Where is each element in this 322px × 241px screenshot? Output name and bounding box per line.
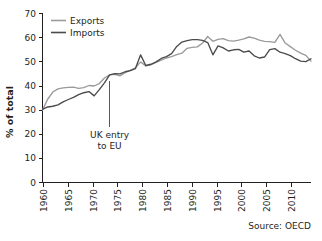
x-axis-ticks (44, 183, 292, 187)
x-tick-label: 1985 (163, 189, 173, 212)
chart-container: 0 10 20 30 40 50 60 70 % of total (0, 0, 322, 241)
y-axis-tick-labels: 0 10 20 30 40 50 60 70 (25, 9, 37, 188)
x-tick-label: 1995 (213, 189, 223, 212)
y-tick-label: 50 (25, 57, 37, 67)
y-tick-label: 60 (25, 33, 37, 43)
legend-label-exports: Exports (70, 16, 104, 26)
y-tick-label: 30 (25, 105, 37, 115)
x-tick-label: 1970 (89, 189, 99, 212)
x-tick-label: 2000 (237, 189, 247, 212)
x-tick-label: 1990 (188, 189, 198, 212)
x-tick-label: 2005 (262, 189, 272, 212)
y-axis-title: % of total (4, 86, 15, 138)
x-axis-tick-labels: 1960 1965 1970 1975 1980 1985 1990 1995 … (39, 189, 297, 212)
legend-label-imports: Imports (70, 28, 105, 38)
x-tick-label: 1965 (64, 189, 74, 212)
line-chart: 0 10 20 30 40 50 60 70 % of total (0, 0, 322, 241)
x-tick-label: 2010 (287, 189, 297, 212)
annotation-text-line1: UK entry (90, 130, 130, 140)
legend: Exports Imports (51, 16, 105, 38)
series-line-imports (43, 40, 312, 110)
y-tick-label: 10 (25, 153, 37, 163)
y-axis-ticks (39, 14, 43, 183)
x-tick-label: 1960 (39, 189, 49, 212)
y-tick-label: 70 (25, 9, 37, 19)
annotation-text-line2: to EU (98, 141, 122, 151)
y-tick-label: 0 (30, 178, 36, 188)
y-tick-label: 20 (25, 129, 37, 139)
source-note: Source: OECD (248, 221, 311, 231)
y-tick-label: 40 (25, 81, 37, 91)
x-tick-label: 1980 (138, 189, 148, 212)
x-tick-label: 1975 (113, 189, 123, 212)
